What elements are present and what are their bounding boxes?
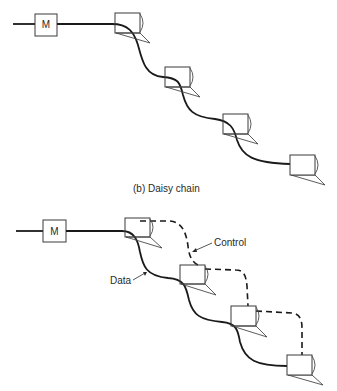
data-control-diagram: M — [16, 218, 323, 385]
daisy-chain-diagram: M (b) Daisy chain — [13, 13, 325, 194]
master-label: M — [42, 19, 50, 30]
control-cable — [140, 221, 200, 266]
caption-daisy-chain: (b) Daisy chain — [133, 183, 200, 194]
disk-drive-4 — [290, 155, 325, 185]
control-label: Control — [214, 237, 246, 248]
disk-drive-3 — [223, 114, 258, 144]
master-box: M — [35, 14, 57, 36]
data-label: Data — [110, 275, 132, 286]
master-box: M — [43, 220, 66, 242]
disk-drive-1 — [115, 13, 150, 43]
data-callout: Data — [110, 272, 147, 286]
diagram-canvas: M (b) Daisy chain — [0, 0, 337, 391]
disk-drive-4 — [287, 355, 323, 385]
control-cable-2 — [205, 269, 248, 306]
data-cable — [66, 231, 287, 366]
control-callout: Control — [192, 237, 246, 252]
master-label: M — [50, 226, 58, 237]
